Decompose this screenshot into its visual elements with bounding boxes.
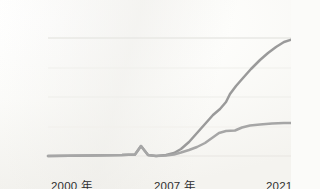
gridline-group xyxy=(48,38,291,156)
line-chart-figure: 2000 年 2007 年 2021 年 xyxy=(40,16,251,173)
axis-tick-label-2000: 2000 年 xyxy=(51,177,92,189)
chart-canvas xyxy=(40,16,291,189)
axis-tick-label-2021: 2021 年 xyxy=(266,177,291,189)
axis-tick-label-2007: 2007 年 xyxy=(154,177,195,189)
